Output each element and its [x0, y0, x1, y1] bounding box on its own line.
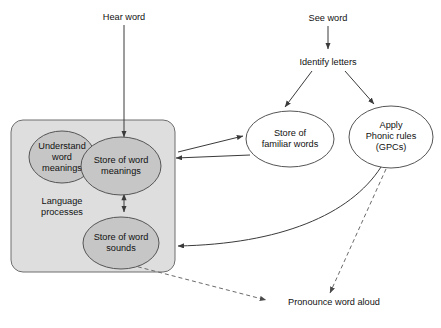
edge-apply-phonic-rules-to-store-of-word-sounds: [178, 167, 381, 246]
edge-apply-phonic-rules-to-pronounce-word-aloud: [330, 169, 386, 293]
apply-phonic-rules-label-line2: Phonic rules: [366, 131, 417, 141]
node-store-of-word-sounds[interactable]: Store of word sounds: [83, 217, 159, 269]
store-of-word-meanings-label-line2: meanings: [101, 166, 141, 176]
apply-phonic-rules-label-line1: Apply: [380, 120, 403, 130]
language-processes-label-line1: Language: [42, 196, 83, 206]
store-of-familiar-words-label-line2: familiar words: [262, 139, 319, 149]
identify-letters-label: Identify letters: [299, 57, 357, 67]
understand-word-meanings-label-line2: word: [51, 152, 72, 162]
edge-store-of-familiar-words-to-store-of-word-meanings: [176, 155, 250, 158]
see-word-label: See word: [309, 13, 348, 23]
diagram-canvas: Understand word meanings Store of word m…: [0, 0, 441, 328]
understand-word-meanings-label-line3: meanings: [42, 163, 82, 173]
store-of-familiar-words-label-line1: Store of: [274, 128, 307, 138]
language-processes-label: Language processes: [41, 196, 83, 217]
node-store-of-word-meanings[interactable]: Store of word meanings: [81, 137, 161, 195]
edge-store-of-word-meanings-to-store-of-familiar-words: [178, 136, 243, 152]
understand-word-meanings-label-line1: Understand: [38, 141, 86, 151]
edge-identify-letters-to-apply-phonic-rules: [345, 71, 374, 104]
apply-phonic-rules-label-line3: (GPCs): [376, 142, 407, 152]
hear-word-label: Hear word: [103, 12, 145, 22]
node-store-of-familiar-words[interactable]: Store of familiar words: [246, 111, 334, 167]
dual-route-reading-diagram: Understand word meanings Store of word m…: [0, 0, 441, 328]
store-of-word-sounds-label-line2: sounds: [106, 243, 136, 253]
store-of-word-sounds-label-line1: Store of word: [94, 232, 149, 242]
node-apply-phonic-rules[interactable]: Apply Phonic rules (GPCs): [349, 106, 433, 168]
store-of-word-meanings-label-line1: Store of word: [94, 155, 149, 165]
language-processes-label-line2: processes: [41, 207, 83, 217]
edge-identify-letters-to-store-of-familiar-words: [285, 71, 312, 107]
pronounce-word-aloud-label: Pronounce word aloud: [288, 297, 380, 307]
